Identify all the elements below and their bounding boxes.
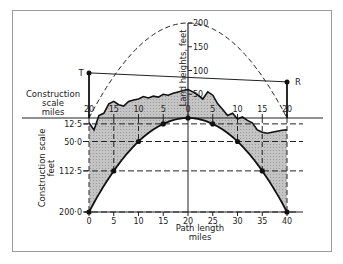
- curve-point-3: [161, 121, 166, 126]
- land-heights-label: Land heights, feet: [178, 29, 188, 107]
- path-length-tick-label-3: 15: [158, 217, 168, 226]
- curve-point-5: [210, 121, 215, 126]
- path-length-tick-label-7: 35: [257, 217, 267, 226]
- land-height-tick-label-1: 100: [193, 67, 208, 76]
- path-length-label-2: miles: [189, 232, 212, 242]
- transmitter-point: [87, 70, 92, 75]
- curve-point-8: [284, 209, 289, 214]
- curve-point-2: [136, 139, 141, 144]
- feet-tick-label-0: 12·5: [64, 120, 82, 129]
- feet-tick-label-1: 50·0: [64, 138, 82, 147]
- curve-point-1: [111, 168, 116, 173]
- construction-feet-label-2: feet: [46, 159, 56, 176]
- receiver-point: [285, 79, 290, 84]
- curve-point-7: [260, 168, 265, 173]
- curve-point-6: [235, 139, 240, 144]
- path-length-tick-label-8: 40: [282, 217, 292, 226]
- miles-tick-label-2: 10: [133, 105, 143, 114]
- land-height-tick-label-2: 150: [193, 43, 208, 52]
- path-length-tick-label-1: 5: [111, 217, 116, 226]
- miles-tick-label-1: 15: [109, 105, 119, 114]
- miles-tick-label-6: 10: [232, 105, 242, 114]
- feet-tick-label-3: 200·0: [59, 208, 82, 217]
- path-profile-diagram: 12·550·0112·5200·0 201510505101520501001…: [0, 0, 343, 264]
- transmitter-label: T: [77, 68, 84, 78]
- feet-tick-label-2: 112·5: [59, 167, 82, 176]
- curve-point-4: [185, 115, 190, 120]
- miles-tick-label-3: 5: [161, 105, 166, 114]
- construction-miles-label-3: miles: [42, 107, 65, 117]
- path-length-tick-label-2: 10: [133, 217, 143, 226]
- path-length-tick-label-6: 30: [232, 217, 242, 226]
- path-length-tick-label-0: 0: [86, 217, 91, 226]
- miles-tick-label-5: 5: [210, 105, 215, 114]
- curve-point-0: [86, 209, 91, 214]
- receiver-label: R: [295, 77, 301, 87]
- miles-tick-label-7: 15: [257, 105, 267, 114]
